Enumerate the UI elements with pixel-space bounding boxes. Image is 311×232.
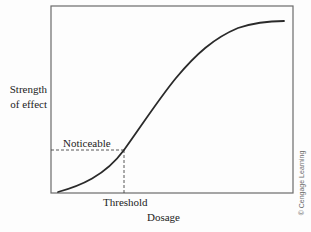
copyright-notice: © Cengage Learning bbox=[298, 151, 305, 216]
x-axis-label: Dosage bbox=[147, 211, 180, 224]
dose-response-curve bbox=[58, 21, 284, 192]
noticeable-annotation: Noticeable bbox=[63, 137, 111, 150]
y-axis-label: Strength of effect bbox=[2, 82, 47, 112]
chart-plot-area bbox=[0, 0, 311, 232]
y-axis-label-line2: of effect bbox=[2, 97, 47, 112]
chart-frame bbox=[51, 6, 293, 193]
threshold-annotation: Threshold bbox=[103, 196, 148, 209]
y-axis-label-line1: Strength bbox=[2, 82, 47, 97]
